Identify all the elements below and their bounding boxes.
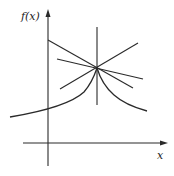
axes [23, 14, 162, 166]
x-axis-arrow-icon [160, 141, 168, 146]
y-axis-label: f(x) [20, 10, 40, 23]
y-axis-arrow-icon [46, 9, 51, 17]
cusp-diagram: f(x) x [0, 0, 174, 176]
x-axis-label: x [157, 149, 164, 162]
secant-line-3 [60, 43, 138, 89]
secant-line-1 [48, 40, 133, 88]
tangent-lines [48, 27, 143, 105]
